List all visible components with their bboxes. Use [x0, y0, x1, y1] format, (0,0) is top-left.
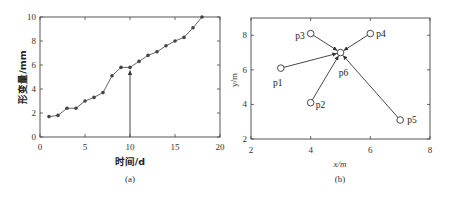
data-point — [101, 91, 105, 95]
data-point — [92, 96, 96, 100]
y-tick-label: 8 — [32, 36, 37, 46]
chart-a-xlabel: 时间/d — [115, 156, 145, 167]
arrow-icon — [344, 35, 368, 50]
data-point — [83, 99, 87, 103]
point-label: p5 — [407, 115, 417, 125]
x-tick-label: 8 — [428, 145, 433, 155]
point-marker — [307, 30, 314, 37]
y-tick-label: 2 — [32, 108, 37, 118]
point-label: p4 — [376, 29, 386, 39]
y-tick-label: 2 — [243, 134, 248, 144]
x-tick-label: 6 — [368, 145, 373, 155]
x-tick-label: 4 — [308, 145, 313, 155]
point-label: p2 — [316, 100, 326, 110]
chart-a-y-ticks: 0246810 — [27, 12, 220, 142]
y-tick-label: 6 — [32, 60, 37, 70]
point-label: p3 — [295, 31, 305, 41]
x-tick-label: 2 — [249, 145, 254, 155]
arrow-icon — [313, 35, 337, 50]
point-marker — [278, 65, 285, 72]
arrow-icon — [284, 54, 337, 68]
chart-a-x-ticks: 05101520 — [38, 17, 225, 152]
data-point — [173, 39, 177, 43]
data-point — [65, 106, 69, 110]
point-marker — [397, 117, 404, 124]
x-tick-label: 5 — [83, 142, 88, 152]
chart-a-data-points — [47, 15, 204, 118]
y-tick-label: 4 — [32, 84, 37, 94]
x-tick-label: 20 — [216, 142, 226, 152]
chart-a-ylabel: 形变量/mm — [17, 50, 28, 103]
point-label: p6 — [339, 68, 349, 78]
chart-a-caption: (a) — [125, 174, 135, 184]
arrow-icon — [312, 56, 338, 100]
data-point — [119, 66, 123, 70]
data-point — [146, 54, 150, 58]
y-tick-label: 6 — [243, 65, 248, 75]
x-tick-label: 10 — [126, 142, 136, 152]
data-point — [182, 36, 186, 40]
chart-b: 2468 2468 p1p2p3p4p5p6 x/m y/m (b) — [229, 18, 433, 184]
chart-b-caption: (b) — [335, 174, 346, 184]
chart-a-series-line — [49, 17, 202, 117]
chart-b-y-ticks: 2468 — [243, 30, 431, 144]
data-point — [191, 26, 195, 30]
data-point — [110, 74, 114, 78]
y-tick-label: 0 — [32, 132, 37, 142]
figure: 05101520 0246810 时间/d 形变量/mm (a) 2468 24… — [0, 0, 452, 201]
chart-a: 05101520 0246810 时间/d 形变量/mm (a) — [17, 12, 225, 184]
point-marker — [367, 30, 374, 37]
y-tick-label: 8 — [243, 30, 248, 40]
data-point — [74, 106, 78, 110]
data-point — [164, 44, 168, 48]
x-tick-label: 0 — [38, 142, 43, 152]
chart-b-ylabel: y/m — [229, 73, 239, 87]
data-point — [200, 15, 204, 19]
chart-b-xlabel: x/m — [333, 159, 347, 169]
chart-b-points: p1p2p3p4p5p6 — [273, 29, 417, 125]
y-tick-label: 4 — [243, 99, 248, 109]
data-point — [128, 66, 132, 70]
point-marker — [337, 49, 344, 56]
data-point — [137, 60, 141, 64]
x-tick-label: 15 — [171, 142, 181, 152]
point-label: p1 — [273, 78, 283, 88]
data-point — [47, 115, 51, 119]
point-marker — [307, 99, 314, 106]
data-point — [155, 50, 159, 54]
data-point — [56, 114, 60, 118]
arrow-icon — [343, 55, 398, 117]
y-tick-label: 10 — [27, 12, 37, 22]
